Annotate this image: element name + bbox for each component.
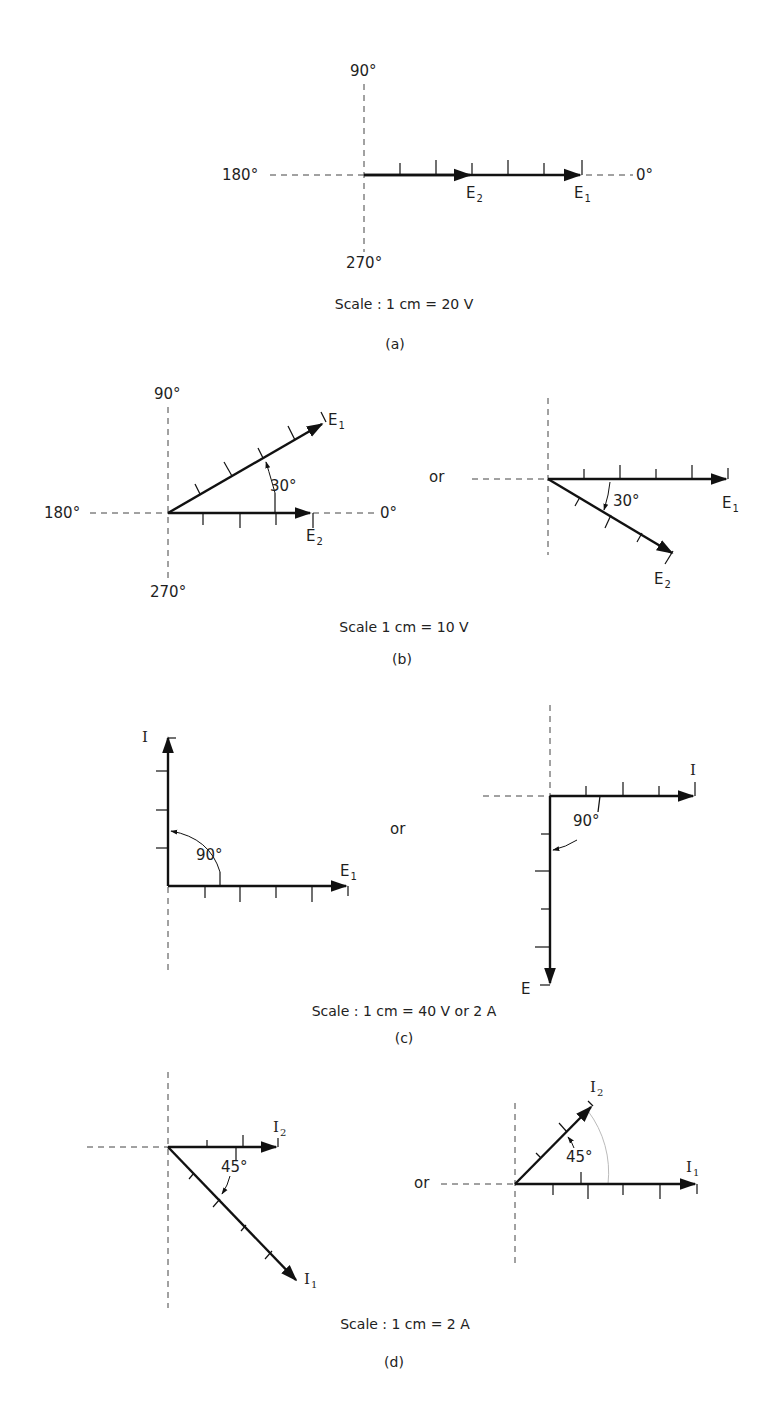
or-connector-b: or bbox=[429, 470, 444, 485]
angle-arc-b-right bbox=[604, 482, 610, 510]
axis-label-90: 90° bbox=[154, 387, 181, 402]
phasor-label-i1: I1 bbox=[686, 1160, 699, 1178]
panel-a-diagram bbox=[270, 84, 633, 252]
phasor-b-right-e2 bbox=[548, 479, 672, 553]
phasor-label-e2: E2 bbox=[654, 572, 671, 590]
phasor-label-i2: I2 bbox=[590, 1080, 603, 1098]
panel-d-right-diagram bbox=[441, 1101, 697, 1265]
phasor-label-e2: E2 bbox=[306, 529, 323, 547]
or-connector-d: or bbox=[414, 1176, 429, 1191]
phasor-label-e1: E1 bbox=[722, 496, 739, 514]
phasor-label-i: I bbox=[690, 763, 696, 778]
phasor-label-i1: I1 bbox=[304, 1272, 317, 1290]
angle-label-30: 30° bbox=[270, 479, 297, 494]
angle-label-45: 45° bbox=[566, 1150, 593, 1165]
phasor-label-e2: E2 bbox=[466, 186, 483, 204]
axis-label-180: 180° bbox=[222, 168, 258, 183]
axis-label-0: 0° bbox=[636, 168, 653, 183]
or-connector-c: or bbox=[390, 822, 405, 837]
angle-label-90: 90° bbox=[196, 848, 223, 863]
angle-label-90: 90° bbox=[573, 814, 600, 829]
panel-d-left-diagram bbox=[87, 1072, 296, 1308]
panel-c-right-diagram bbox=[483, 705, 695, 985]
axis-label-270: 270° bbox=[346, 256, 382, 271]
panel-tag-a: (a) bbox=[385, 337, 405, 351]
phasor-b-left-e1 bbox=[168, 424, 322, 513]
axis-label-90: 90° bbox=[350, 64, 377, 79]
scale-caption-c: Scale : 1 cm = 40 V or 2 A bbox=[312, 1004, 497, 1018]
panel-b-left-diagram bbox=[90, 407, 378, 582]
panel-tag-c: (c) bbox=[395, 1031, 414, 1045]
phasor-label-i2: I2 bbox=[273, 1120, 286, 1138]
phasor-d-right-i2 bbox=[515, 1107, 591, 1184]
axis-label-0: 0° bbox=[380, 506, 397, 521]
angle-label-45: 45° bbox=[221, 1160, 248, 1175]
panel-a-reference-axes bbox=[270, 84, 633, 252]
axis-label-270: 270° bbox=[150, 585, 186, 600]
phasor-label-e: E bbox=[521, 982, 530, 997]
panel-c-left-diagram bbox=[156, 738, 348, 970]
angle-arc-d-right bbox=[568, 1137, 574, 1148]
panel-b-right-diagram bbox=[472, 398, 728, 564]
phasor-label-e1: E1 bbox=[340, 864, 357, 882]
axis-label-180: 180° bbox=[44, 506, 80, 521]
phasor-label-e1: E1 bbox=[328, 413, 345, 431]
scale-caption-b: Scale 1 cm = 10 V bbox=[339, 620, 468, 634]
phasor-label-i: I bbox=[142, 730, 148, 745]
scale-caption-a: Scale : 1 cm = 20 V bbox=[335, 297, 473, 311]
phasor-diagram-canvas bbox=[0, 0, 774, 1405]
panel-a-ticks bbox=[400, 160, 582, 175]
phasor-label-e1: E1 bbox=[574, 186, 591, 204]
angle-label-30: 30° bbox=[613, 494, 640, 509]
scale-caption-d: Scale : 1 cm = 2 A bbox=[340, 1317, 470, 1331]
panel-tag-d: (d) bbox=[384, 1355, 404, 1369]
panel-tag-b: (b) bbox=[392, 652, 412, 666]
angle-arc-c-right bbox=[553, 840, 577, 850]
angle-arc-d-left bbox=[222, 1176, 230, 1194]
